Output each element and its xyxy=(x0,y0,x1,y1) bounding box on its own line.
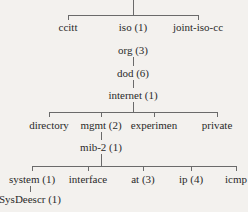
internet-branch-line xyxy=(49,112,218,113)
private-tick xyxy=(217,112,218,117)
internet-stem xyxy=(133,102,134,112)
node-dod: dod (6) xyxy=(117,67,149,79)
node-interface: interface xyxy=(69,173,107,185)
node-icmp: icmp xyxy=(225,173,247,185)
ccitt-tick xyxy=(68,15,69,20)
mgmt-tick xyxy=(101,112,102,117)
joint-tick xyxy=(198,15,199,20)
node-iso: iso (1) xyxy=(119,21,147,33)
node-sysdescr: SysDeescr (1) xyxy=(0,193,61,205)
node-mib-2: mib-2 (1) xyxy=(80,141,122,153)
org-dod-edge xyxy=(133,57,134,66)
node-internet: internet (1) xyxy=(108,89,157,101)
node-joint-iso-ccitt: joint-iso-cc xyxy=(173,21,223,33)
node-mgmt: mgmt (2) xyxy=(80,119,121,131)
mib2-branch-line xyxy=(32,166,237,167)
node-directory: directory xyxy=(29,119,69,131)
icmp-tick xyxy=(236,166,237,171)
node-private: private xyxy=(202,119,233,131)
node-ccitt: ccitt xyxy=(59,21,78,33)
root-branch-line xyxy=(68,15,199,16)
node-org: org (3) xyxy=(118,44,148,56)
at-tick xyxy=(143,166,144,171)
node-ip: ip (4) xyxy=(179,173,203,185)
node-experimental: experimen xyxy=(131,119,177,131)
root-stem xyxy=(133,0,134,15)
interface-tick xyxy=(88,166,89,171)
dod-internet-edge xyxy=(133,80,134,88)
node-at: at (3) xyxy=(131,173,155,185)
directory-tick xyxy=(49,112,50,117)
mgmt-mib2-edge xyxy=(101,132,102,140)
system-sysdescr-edge xyxy=(30,186,31,192)
system-tick xyxy=(32,166,33,171)
mib2-stem xyxy=(101,154,102,166)
node-system: system (1) xyxy=(9,173,55,185)
ip-tick xyxy=(191,166,192,171)
experimen-tick xyxy=(154,112,155,117)
